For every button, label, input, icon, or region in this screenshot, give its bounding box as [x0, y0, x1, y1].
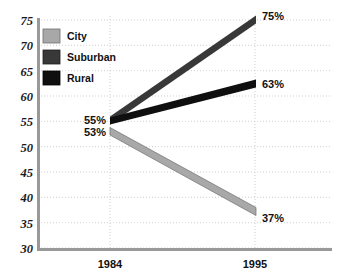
ytick-label-75: 75	[21, 14, 34, 28]
legend-label-city: City	[67, 30, 87, 42]
value-label-end-75: 75%	[262, 10, 284, 22]
ytick-label-60: 60	[21, 90, 34, 104]
legend-item-suburban[interactable]: Suburban	[43, 50, 116, 64]
legend-label-rural: Rural	[67, 72, 94, 84]
ytick-label-35: 35	[20, 217, 34, 231]
ytick-label-40: 40	[20, 191, 34, 205]
slope-chart: 75 70 65 60 55 50 45 40 35 30 1984 1995 …	[0, 0, 343, 280]
value-label-end-63: 63%	[262, 78, 284, 90]
legend-item-rural[interactable]: Rural	[43, 71, 94, 85]
legend-label-suburban: Suburban	[67, 51, 116, 63]
legend-swatch-rural	[43, 71, 60, 85]
xtick-label-1995: 1995	[243, 258, 267, 270]
value-label-end-37: 37%	[262, 212, 284, 224]
ytick-label-70: 70	[21, 39, 34, 53]
legend-swatch-city	[43, 29, 60, 43]
ytick-label-45: 45	[20, 166, 34, 180]
ytick-label-55: 55	[21, 115, 34, 129]
ytick-label-30: 30	[20, 242, 34, 256]
chart-canvas: 75 70 65 60 55 50 45 40 35 30 1984 1995 …	[0, 0, 343, 280]
ytick-label-50: 50	[21, 141, 34, 155]
ytick-label-65: 65	[21, 65, 34, 79]
legend-swatch-suburban	[43, 50, 60, 64]
value-label-start-55: 55%	[84, 114, 106, 126]
xtick-label-1984: 1984	[98, 258, 123, 270]
value-label-start-53: 53%	[84, 126, 106, 138]
